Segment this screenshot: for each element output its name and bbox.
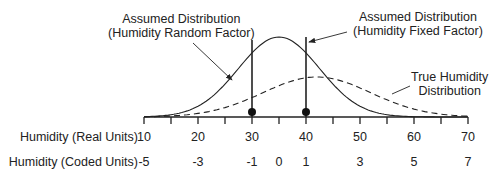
true-distribution-label-line1: True Humidity [411, 70, 488, 84]
real-units-tick-label: 60 [407, 130, 421, 144]
coded-units-tick-label: -3 [192, 155, 203, 169]
random-factor-label-line2: (Humidity Random Factor) [108, 26, 255, 40]
coded-units-tick-label: 0 [276, 155, 283, 169]
random-factor-label-line1: Assumed Distribution [108, 12, 255, 26]
coded-units-tick-label: 7 [465, 155, 472, 169]
fixed-factor-label-line2: (Humidity Fixed Factor) [353, 24, 483, 38]
real-units-tick-label: 30 [245, 130, 259, 144]
coded-units-axis-label: Humidity (Coded Units) [9, 155, 138, 169]
random-factor-level-point [248, 108, 256, 116]
true-distribution-label: True Humidity Distribution [411, 70, 488, 98]
random-factor-arrow [193, 43, 232, 80]
real-units-tick-label: 20 [191, 130, 205, 144]
fixed-factor-level-point [302, 108, 310, 116]
real-units-tick-label: 40 [299, 130, 313, 144]
true-distribution-label-line2: Distribution [411, 84, 488, 98]
fixed-factor-label-line1: Assumed Distribution [353, 10, 483, 24]
real-units-axis-label: Humidity (Real Units) [20, 130, 138, 144]
coded-units-tick-label: 1 [303, 155, 310, 169]
real-units-tick-label: 50 [353, 130, 367, 144]
random-factor-label: Assumed Distribution (Humidity Random Fa… [108, 12, 255, 40]
real-units-tick-label: 70 [461, 130, 475, 144]
fixed-factor-label: Assumed Distribution (Humidity Fixed Fac… [353, 10, 483, 38]
coded-units-tick-label: -5 [138, 155, 149, 169]
fixed-factor-arrow [309, 32, 347, 42]
true-distribution-arrow [392, 86, 410, 94]
x-axis [144, 117, 468, 124]
coded-units-tick-label: 5 [411, 155, 418, 169]
coded-units-tick-label: 3 [357, 155, 364, 169]
real-units-tick-label: 10 [137, 130, 151, 144]
coded-units-tick-label: -1 [246, 155, 257, 169]
